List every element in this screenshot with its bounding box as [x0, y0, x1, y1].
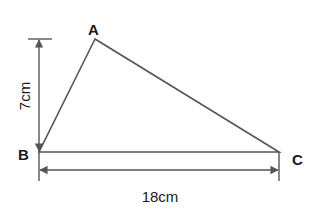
height-label: 7cm: [16, 82, 33, 110]
vertex-label-a: A: [88, 21, 99, 38]
vertex-label-c: C: [292, 151, 303, 168]
triangle-diagram: A B C 7cm 18cm: [0, 0, 320, 220]
base-label: 18cm: [142, 188, 179, 205]
triangle-abc: [39, 39, 279, 152]
vertex-label-b: B: [18, 146, 29, 163]
